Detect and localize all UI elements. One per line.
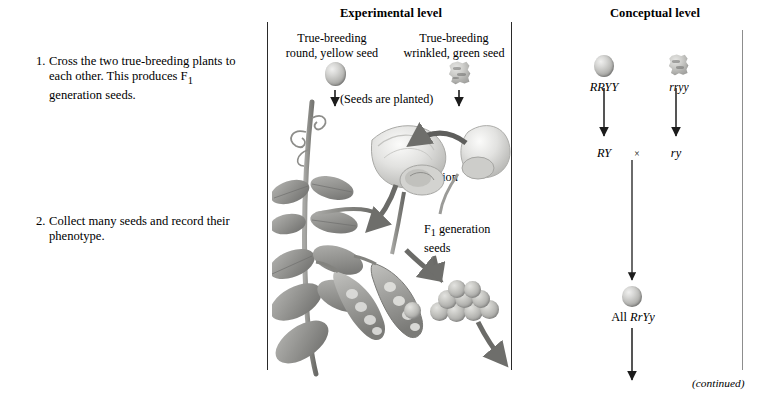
gamete-right: ry	[650, 146, 702, 161]
step-2-number: 2.	[36, 214, 45, 229]
parent-left-caption-line1: True-breeding	[272, 31, 392, 46]
step-item-1: 1. Cross the two true-breeding plants to…	[36, 54, 246, 104]
conceptual-wrinkled-seed-icon	[668, 54, 689, 76]
parent-right-caption-line2: wrinkled, green seed	[392, 46, 516, 61]
step-1-text: Cross the two true-breeding plants to ea…	[49, 54, 246, 104]
pea-plant-illustration	[272, 96, 512, 381]
wrinkled-seed-icon	[448, 61, 471, 85]
step-2-text: Collect many seeds and record their phen…	[49, 214, 246, 245]
conceptual-round-seed-icon	[594, 55, 614, 77]
round-seed-icon	[325, 62, 346, 86]
parent-right-caption: True-breeding wrinkled, green seed	[392, 31, 516, 60]
parent-left-caption-line2: round, yellow seed	[272, 46, 392, 61]
step-1-number: 1.	[36, 54, 45, 69]
f1-offspring-seed-icon	[622, 286, 642, 307]
figure-root: Experimental level Conceptual level 1. C…	[0, 0, 775, 395]
continued-note: (continued)	[692, 377, 745, 389]
parent-right-caption-line1: True-breeding	[392, 31, 516, 46]
offspring-prefix: All	[611, 310, 630, 324]
cross-symbol: ×	[625, 149, 649, 159]
divider-right	[742, 30, 743, 370]
step-item-2: 2. Collect many seeds and record their p…	[36, 214, 246, 245]
pea-plant-svg	[272, 96, 512, 381]
parent-left-genotype: RRYY	[574, 80, 634, 95]
parent-right-genotype: rryy	[650, 81, 708, 94]
experimental-level-header: Experimental level	[272, 6, 510, 21]
parent-left-caption: True-breeding round, yellow seed	[272, 31, 392, 60]
offspring-genotype-label: All RrYy	[592, 310, 674, 325]
divider-left	[267, 22, 268, 370]
conceptual-level-header: Conceptual level	[570, 6, 740, 21]
gamete-left: RY	[578, 146, 630, 161]
offspring-genotype: RrYy	[630, 310, 655, 324]
f1-seed-pile	[404, 282, 514, 332]
